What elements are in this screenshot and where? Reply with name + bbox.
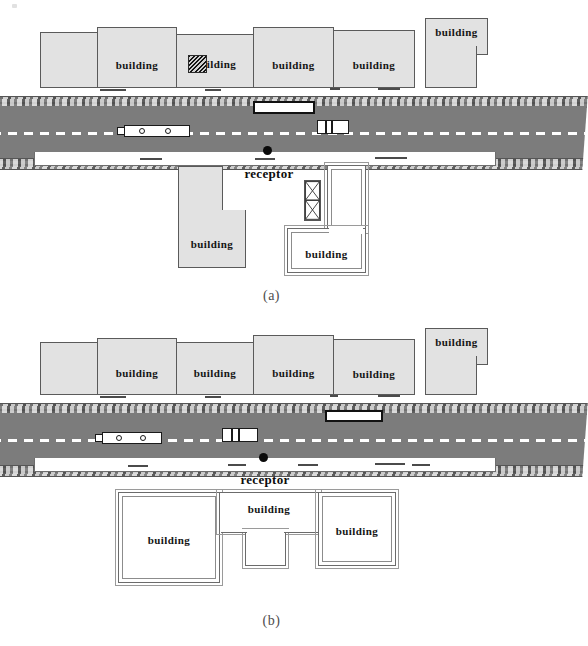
building-label: building (426, 26, 487, 38)
building-a-top-6-notch (476, 46, 488, 55)
vehicle-bus-lower-lane-b (102, 432, 162, 444)
building-label: building (98, 367, 176, 379)
staircase-symbol-a (304, 180, 321, 221)
truck-divider (231, 429, 233, 441)
vehicle-block-upper-lane-a (253, 101, 315, 114)
building-b-top-1 (40, 342, 98, 395)
facade-mark (255, 158, 275, 160)
vehicle-block-upper-lane-b (325, 410, 383, 422)
building-b-top-4: building (253, 335, 334, 395)
building-label: building (334, 59, 414, 71)
receptor-label-b: receptor (210, 472, 320, 488)
building-label: building (254, 367, 333, 379)
facade-mark (140, 158, 162, 160)
building-label: building (426, 336, 487, 348)
building-label: building (98, 59, 176, 71)
lane-centerline (0, 439, 585, 442)
building-a-top-6-head: building (425, 18, 488, 48)
bus-wheel (140, 435, 146, 441)
building-b-bottom-middle-top: building (219, 492, 319, 532)
building-b-bottom-middle-cap-left (221, 529, 247, 533)
bus-wheel (116, 435, 122, 441)
building-b-bottom-middle-stem (245, 531, 286, 566)
facade-mark (412, 464, 430, 466)
facade-mark (298, 464, 318, 466)
building-a-bottom-left-upper (178, 166, 223, 211)
receptor-point-b (259, 453, 268, 462)
vehicle-truck-lower-lane-a (317, 120, 349, 134)
panel-a: building building building building buil… (0, 0, 543, 323)
vehicle-truck-lower-lane-b (222, 428, 258, 442)
building-label: building (179, 238, 245, 250)
building-a-top-2: building (97, 27, 177, 88)
facade-mark (375, 157, 407, 159)
building-b-top-6-white-gap (414, 358, 426, 395)
bus-cab (117, 127, 125, 135)
building-a-bottom-left-lower: building (178, 210, 246, 268)
building-a-top-6-white-gap (414, 48, 426, 88)
building-a-bottom-right-arm (327, 165, 366, 231)
bus-wheel (165, 128, 171, 134)
building-b-bottom-right: building (318, 492, 396, 566)
building-a-bottom-left-joint (179, 208, 222, 212)
building-label: building (177, 367, 253, 379)
lane-centerline (0, 132, 585, 135)
building-a-top-3: building (176, 34, 254, 88)
truck-divider (325, 121, 327, 133)
ink-smudge-artifact (188, 55, 207, 73)
staircase-icon (305, 181, 320, 220)
vehicle-bus-lower-lane-a (124, 125, 190, 137)
building-b-top-6-head: building (425, 328, 488, 358)
building-a-bottom-right-joint (329, 226, 363, 234)
panel-b: building building building building buil… (0, 320, 543, 643)
facade-mark (228, 464, 246, 466)
building-a-top-1 (40, 32, 98, 88)
receptor-point-a (263, 146, 272, 155)
building-b-bottom-middle-joint (247, 529, 284, 534)
building-label: building (119, 534, 219, 546)
panel-caption-a: (a) (0, 288, 543, 304)
building-label: building (288, 248, 365, 260)
building-a-top-5: building (333, 30, 415, 88)
building-label: building (220, 503, 318, 515)
building-a-top-4: building (253, 27, 334, 88)
building-label: building (254, 59, 333, 71)
building-b-top-2: building (97, 338, 177, 395)
building-b-bottom-left: building (118, 492, 220, 583)
building-b-bottom-middle-cap-right (284, 529, 318, 533)
panel-caption-b: (b) (0, 613, 543, 629)
truck-divider (238, 429, 240, 441)
facade-mark (375, 463, 405, 465)
building-label: building (319, 525, 395, 537)
building-a-bottom-right-base: building (287, 228, 366, 273)
building-a-top-6-body (425, 46, 477, 88)
inner-outline (331, 169, 362, 228)
facade-mark (128, 465, 148, 467)
truck-divider (331, 121, 333, 133)
building-b-top-6-body (425, 356, 477, 395)
building-b-top-3: building (176, 342, 254, 395)
bus-wheel (139, 128, 145, 134)
building-b-top-5: building (333, 339, 415, 395)
building-label: building (334, 368, 414, 380)
bus-cab (95, 434, 103, 442)
building-b-top-6-notch (476, 356, 488, 365)
